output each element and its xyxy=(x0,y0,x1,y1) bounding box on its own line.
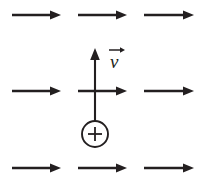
diagram-background xyxy=(0,0,205,186)
velocity-label-text: v xyxy=(110,51,119,72)
positive-charge xyxy=(82,121,108,147)
physics-diagram: v xyxy=(0,0,205,186)
diagram-canvas: v xyxy=(0,0,205,186)
